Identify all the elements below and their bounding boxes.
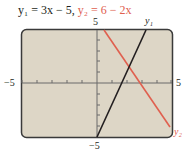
series-y2-label: y₂: [174, 126, 182, 137]
y-min-label: −5: [89, 140, 100, 151]
y-max-label: 5: [93, 16, 98, 27]
x-max-label: 5: [176, 77, 181, 88]
series-y1-label: y₁: [145, 15, 153, 26]
x-min-label: −5: [4, 77, 15, 88]
